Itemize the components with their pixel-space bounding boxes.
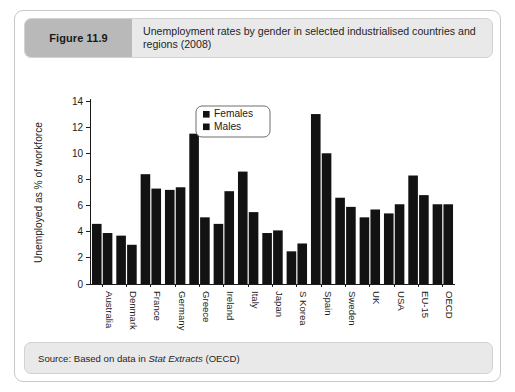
bar-france-males	[151, 189, 161, 284]
bar-s-korea-males	[297, 243, 307, 284]
figure-title: Unemployment rates by gender in selected…	[132, 19, 492, 57]
y-tick-label: 0	[77, 279, 83, 290]
x-axis-label-ireland: Ireland	[225, 291, 236, 320]
bar-australia-females	[92, 224, 102, 284]
x-axis-label-spain: Spain	[323, 291, 334, 316]
bar-chart: Unemployed as % of workforce02468101214A…	[24, 65, 493, 339]
figure-card: Figure 11.9 Unemployment rates by gender…	[14, 10, 501, 382]
bar-oecd-males	[443, 204, 453, 284]
bar-japan-females	[262, 233, 272, 284]
y-tick-label: 6	[77, 200, 83, 211]
y-tick-label: 4	[77, 226, 83, 237]
bar-s-korea-females	[287, 251, 297, 284]
x-axis-label-s-korea: S Korea	[298, 291, 309, 326]
bar-denmark-females	[116, 236, 126, 284]
bar-spain-males	[322, 153, 332, 284]
bar-italy-females	[238, 172, 248, 284]
bar-eu-15-females	[408, 176, 418, 284]
x-axis-label-eu-15: EU-15	[420, 291, 431, 318]
bar-uk-females	[360, 217, 370, 284]
source-prefix: Source: Based on data in	[38, 353, 148, 364]
bar-france-females	[141, 174, 151, 284]
source-suffix: (OECD)	[203, 353, 240, 364]
bar-greece-females	[189, 134, 199, 284]
bar-eu-15-males	[419, 195, 429, 284]
bar-sweden-females	[335, 198, 345, 284]
bar-australia-males	[103, 233, 113, 284]
x-axis-label-australia: Australia	[104, 291, 115, 329]
bar-ireland-males	[224, 191, 234, 284]
chart-area: Unemployed as % of workforce02468101214A…	[24, 65, 493, 339]
bar-greece-males	[200, 217, 210, 284]
x-axis-label-france: France	[152, 291, 163, 321]
legend-label-females: Females	[214, 108, 253, 119]
legend-label-males: Males	[214, 121, 241, 132]
bar-ireland-females	[214, 224, 224, 284]
bar-usa-females	[384, 213, 394, 284]
figure-source: Source: Based on data in Stat Extracts (…	[24, 342, 493, 374]
bar-spain-females	[311, 114, 321, 284]
bar-germany-females	[165, 190, 175, 284]
y-tick-label: 8	[77, 174, 83, 185]
x-axis-label-sweden: Sweden	[347, 291, 358, 326]
y-axis-title: Unemployed as % of workforce	[33, 122, 44, 263]
bar-uk-males	[370, 209, 380, 284]
bar-japan-males	[273, 230, 283, 284]
x-axis-label-usa: USA	[396, 291, 407, 311]
x-axis-label-greece: Greece	[201, 291, 212, 322]
y-tick-label: 12	[72, 122, 84, 133]
y-tick-label: 2	[77, 252, 83, 263]
bar-sweden-males	[346, 207, 356, 284]
x-axis-label-denmark: Denmark	[128, 291, 139, 330]
bar-oecd-females	[433, 204, 443, 284]
x-axis-label-italy: Italy	[250, 291, 261, 309]
legend-swatch-females	[203, 111, 210, 118]
x-axis-label-uk: UK	[371, 291, 382, 305]
x-axis-label-oecd: OECD	[444, 291, 455, 319]
figure-header: Figure 11.9 Unemployment rates by gender…	[24, 18, 493, 58]
x-axis-label-japan: Japan	[274, 291, 285, 317]
source-publication: Stat Extracts	[148, 353, 202, 364]
bar-germany-males	[176, 187, 186, 284]
bar-usa-males	[395, 204, 405, 284]
x-axis-label-germany: Germany	[177, 291, 188, 331]
figure-number-badge: Figure 11.9	[25, 19, 132, 57]
bar-denmark-males	[127, 245, 137, 284]
bar-italy-males	[249, 212, 259, 284]
y-tick-label: 14	[72, 96, 84, 107]
y-tick-label: 10	[72, 148, 84, 159]
legend-swatch-males	[203, 124, 210, 131]
